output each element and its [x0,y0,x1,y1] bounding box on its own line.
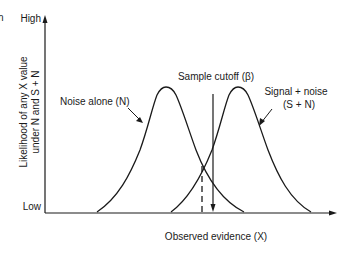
clipped-caption-fragment: n [0,12,4,23]
y-axis-low-label: Low [23,201,42,212]
y-axis-arrow-icon [43,15,48,23]
signal-detection-diagram: n High Low Likelihood of any X value und… [0,0,349,257]
y-axis-high-label: High [20,13,41,24]
y-axis-title-line2: under N and S + N [30,70,41,153]
noise-pointer-arrow-icon [136,117,143,123]
signal-curve-label-line2: (S + N) [283,99,315,110]
noise-curve-label: Noise alone (N) [60,96,129,107]
x-axis-title: Observed evidence (X) [165,231,267,242]
signal-curve-label-line1: Signal + noise [264,86,328,97]
x-axis-arrow-icon [329,211,337,216]
cutoff-arrow-icon [211,204,216,212]
y-axis-title-line1: Likelihood of any X value [18,56,29,168]
cutoff-label: Sample cutoff (β) [178,71,254,82]
